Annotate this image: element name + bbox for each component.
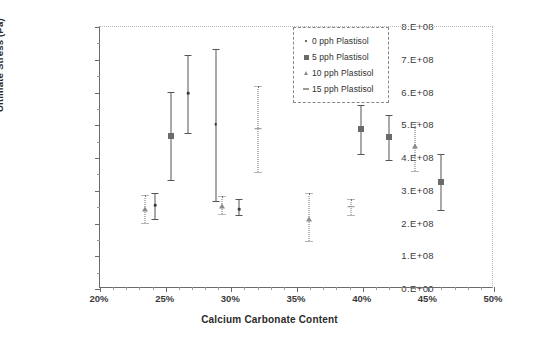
x-axis-tick — [363, 287, 364, 292]
data-point — [216, 196, 228, 215]
error-bar-cap-lower — [167, 180, 174, 181]
data-point — [139, 195, 151, 223]
error-bar-cap-upper — [347, 199, 354, 200]
x-axis-minor-tick — [244, 287, 245, 290]
error-bar-cap-upper — [219, 196, 226, 197]
y-axis-tick — [95, 60, 100, 61]
error-bar-cap-upper — [412, 122, 419, 123]
series-marker-dot — [154, 204, 157, 207]
legend-marker-triangle — [300, 71, 312, 75]
legend-item-label: 15 pph Plastisol — [312, 84, 374, 94]
data-point — [165, 92, 177, 180]
data-point — [252, 86, 264, 172]
error-bar-cap-lower — [305, 241, 312, 242]
error-bar-cap-upper — [141, 195, 148, 196]
y-axis-minor-tick — [97, 109, 100, 110]
series-marker-square — [438, 179, 444, 185]
error-bar-cap-upper — [236, 199, 243, 200]
error-bar-cap-lower — [236, 215, 243, 216]
y-axis-title: Ultimate Stress (Pa) — [0, 18, 5, 112]
x-axis-minor-tick — [323, 287, 324, 290]
x-axis-minor-tick — [113, 287, 114, 290]
x-axis-tick — [494, 287, 495, 292]
y-axis-tick — [95, 158, 100, 159]
error-bar-cap-lower — [141, 223, 148, 224]
series-marker-triangle — [412, 143, 418, 148]
legend-marker-dot — [300, 40, 312, 43]
y-axis-tick — [95, 125, 100, 126]
x-axis-minor-tick — [126, 287, 127, 290]
legend-item: 5 pph Plastisol — [300, 49, 384, 65]
data-point — [409, 122, 421, 171]
x-axis-minor-tick — [192, 287, 193, 290]
data-point — [435, 154, 447, 210]
y-axis-minor-tick — [97, 273, 100, 274]
x-axis-tick-label: 40% — [352, 293, 371, 304]
error-bar-cap-lower — [347, 215, 354, 216]
series-marker-dot — [187, 92, 190, 95]
error-bar-cap-lower — [412, 171, 419, 172]
error-bar — [239, 199, 240, 215]
y-axis-minor-tick — [97, 240, 100, 241]
y-axis-minor-tick — [97, 142, 100, 143]
data-point — [182, 55, 194, 134]
x-axis-tick-label: 35% — [286, 293, 305, 304]
error-bar-cap-upper — [152, 193, 159, 194]
x-axis-tick-label: 50% — [483, 293, 502, 304]
x-axis-tick — [166, 287, 167, 292]
chart-legend: 0 pph Plastisol5 pph Plastisol10 pph Pla… — [293, 27, 389, 103]
error-bar-cap-lower — [438, 210, 445, 211]
error-bar-cap-upper — [254, 86, 261, 87]
x-axis-minor-tick — [258, 287, 259, 290]
x-axis-tick-label: 20% — [89, 293, 108, 304]
data-point — [210, 49, 222, 201]
x-axis-tick — [231, 287, 232, 292]
y-axis-tick — [95, 256, 100, 257]
x-axis-minor-tick — [336, 287, 337, 290]
legend-item: 15 pph Plastisol — [300, 81, 384, 97]
y-axis-minor-tick — [97, 76, 100, 77]
x-axis-minor-tick — [271, 287, 272, 290]
error-bar-cap-upper — [212, 49, 219, 50]
legend-marker-square — [300, 55, 312, 60]
data-point — [345, 199, 357, 215]
error-bar-cap-lower — [254, 172, 261, 173]
y-axis-tick — [95, 27, 100, 28]
legend-item-label: 0 pph Plastisol — [312, 36, 369, 46]
x-axis-minor-tick — [402, 287, 403, 290]
data-point — [233, 199, 245, 215]
series-marker-dot — [238, 208, 241, 211]
data-point — [383, 115, 395, 160]
x-axis-minor-tick — [218, 287, 219, 290]
error-bar-cap-lower — [152, 219, 159, 220]
error-bar-cap-upper — [438, 154, 445, 155]
error-bar-cap-upper — [358, 105, 365, 106]
legend-item-label: 5 pph Plastisol — [312, 52, 369, 62]
legend-marker-dash — [300, 88, 312, 90]
x-axis-minor-tick — [481, 287, 482, 290]
series-marker-square — [358, 126, 364, 132]
error-bar-cap-lower — [358, 154, 365, 155]
x-axis-minor-tick — [468, 287, 469, 290]
data-point — [355, 105, 367, 154]
x-axis-minor-tick — [441, 287, 442, 290]
x-axis-minor-tick — [310, 287, 311, 290]
y-axis-tick — [95, 93, 100, 94]
x-axis-minor-tick — [139, 287, 140, 290]
x-axis-minor-tick — [205, 287, 206, 290]
series-marker-square — [386, 134, 392, 140]
x-axis-minor-tick — [179, 287, 180, 290]
error-bar-cap-upper — [305, 193, 312, 194]
x-axis-title: Calcium Carbonate Content — [0, 314, 539, 325]
y-axis-tick — [95, 224, 100, 225]
x-axis-tick-label: 45% — [418, 293, 437, 304]
x-axis-tick-label: 30% — [221, 293, 240, 304]
x-axis-minor-tick — [153, 287, 154, 290]
series-marker-dash — [254, 128, 261, 130]
series-marker-square — [168, 133, 174, 139]
error-bar-cap-upper — [385, 115, 392, 116]
error-bar-cap-lower — [219, 214, 226, 215]
x-axis-tick-label: 25% — [155, 293, 174, 304]
error-bar-cap-upper — [167, 92, 174, 93]
x-axis-minor-tick — [284, 287, 285, 290]
